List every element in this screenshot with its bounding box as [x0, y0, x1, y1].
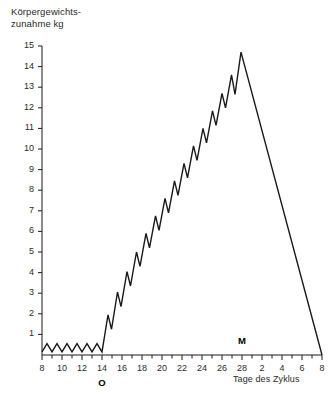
- y-axis-tick-label: 4: [12, 267, 34, 277]
- y-axis-tick-label: 5: [12, 246, 34, 256]
- y-axis-tick-label: 8: [12, 184, 34, 194]
- y-axis-tick-label: 12: [12, 102, 34, 112]
- annotation-o: O: [92, 377, 112, 388]
- y-axis-tick-label: 15: [12, 40, 34, 50]
- y-axis-ticks: [38, 46, 42, 334]
- plot-area: [0, 0, 329, 403]
- y-axis-tick-label: 14: [12, 61, 34, 71]
- x-axis-tick-label: 8: [310, 363, 329, 373]
- y-axis-tick-label: 1: [12, 328, 34, 338]
- y-axis-tick-label: 9: [12, 164, 34, 174]
- y-axis-tick-label: 2: [12, 308, 34, 318]
- annotation-m: M: [232, 335, 252, 346]
- x-axis-ticks: [42, 355, 322, 360]
- y-axis-tick-label: 13: [12, 81, 34, 91]
- y-axis-tick-label: 6: [12, 225, 34, 235]
- y-axis-tick-label: 7: [12, 205, 34, 215]
- weight-gain-chart: Körpergewichts- zunahme kg Tage des Zykl…: [0, 0, 329, 403]
- y-axis-tick-label: 11: [12, 122, 34, 132]
- y-axis-tick-label: 10: [12, 143, 34, 153]
- data-line-series: [42, 52, 322, 355]
- y-axis-tick-label: 3: [12, 287, 34, 297]
